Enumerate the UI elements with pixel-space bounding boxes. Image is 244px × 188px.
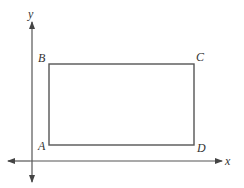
vertex-label-a: A: [37, 139, 46, 153]
coordinate-diagram: y x B C A D: [0, 0, 244, 188]
x-axis-label: x: [224, 154, 231, 168]
vertex-label-c: C: [196, 50, 205, 64]
vertex-label-d: D: [196, 141, 206, 155]
vertex-label-b: B: [38, 51, 46, 65]
y-axis-label: y: [27, 7, 34, 21]
rectangle-abcd: [49, 64, 194, 145]
